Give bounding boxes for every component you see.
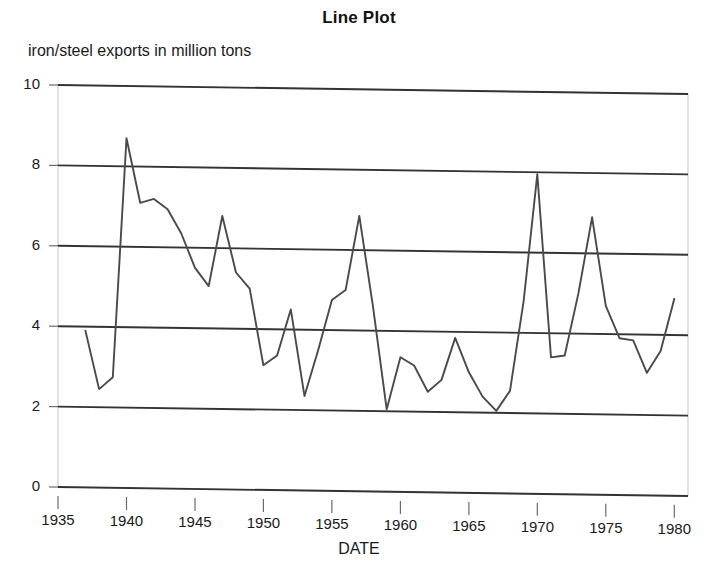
x-tick-label: 1960 [372,516,428,533]
gridlines [58,85,688,496]
x-axis-title: DATE [0,540,718,558]
y-tick-label: 6 [6,236,40,253]
y-tick-label: 4 [6,316,40,333]
line-plot-figure: Line Plot iron/steel exports in million … [0,0,718,577]
data-line-series [85,138,674,411]
plot-area [0,0,718,577]
x-tick-label: 1935 [30,511,86,528]
x-tick-label: 1955 [304,515,360,532]
axis-ticks [49,85,674,518]
x-tick-label: 1970 [509,518,565,535]
y-tick-label: 2 [6,397,40,414]
x-tick-label: 1940 [98,512,154,529]
x-tick-label: 1965 [441,517,497,534]
y-tick-label: 10 [6,75,40,92]
x-tick-label: 1950 [235,514,291,531]
y-tick-label: 8 [6,155,40,172]
x-tick-label: 1975 [578,519,634,536]
plot-box [58,85,688,496]
x-tick-label: 1945 [167,513,223,530]
y-tick-label: 0 [6,477,40,494]
x-tick-label: 1980 [646,520,702,537]
